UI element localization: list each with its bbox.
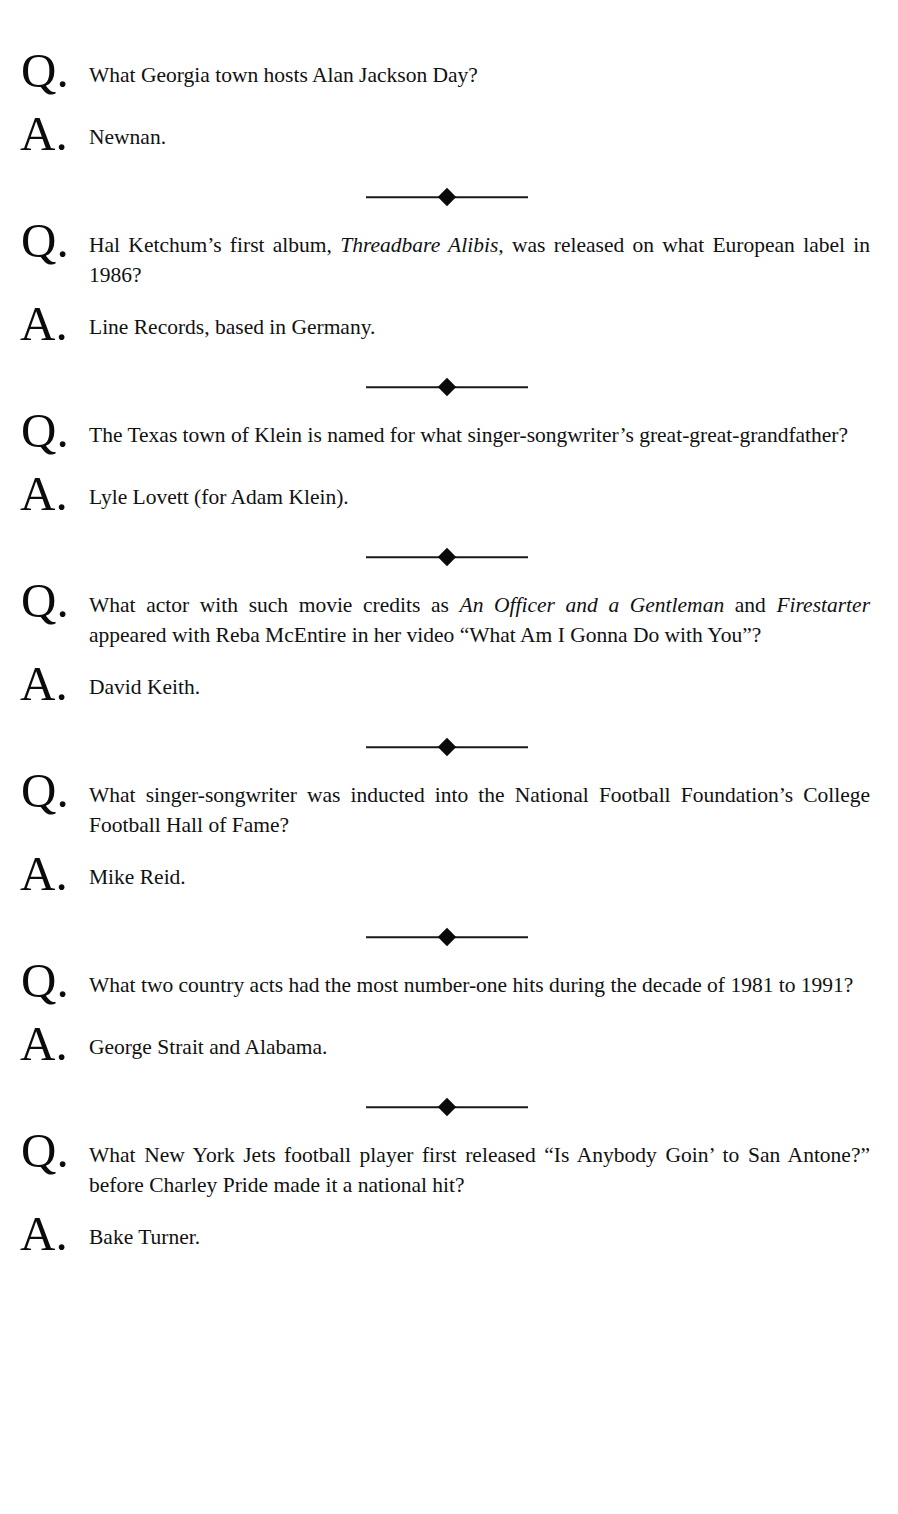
diamond-icon [438,738,456,756]
diamond-icon [438,928,456,946]
question-row: Q.What New York Jets football player fir… [0,1140,898,1200]
question-text: What Georgia town hosts Alan Jackson Day… [89,60,898,90]
diamond-icon [438,188,456,206]
question-row: Q.The Texas town of Klein is named for w… [0,420,898,460]
diamond-ornament-divider [0,730,898,764]
answer-text: Mike Reid. [89,862,898,892]
question-marker: Q. [21,216,69,265]
qa-entry: Q.What Georgia town hosts Alan Jackson D… [0,60,898,162]
qa-entry: Q.What singer-songwriter was inducted in… [0,780,898,902]
question-row: Q.What Georgia town hosts Alan Jackson D… [0,60,898,100]
answer-marker: A. [20,1019,68,1068]
diamond-icon [438,1098,456,1116]
question-row: Q.What two country acts had the most num… [0,970,898,1010]
question-text: What two country acts had the most numbe… [89,970,898,1000]
question-row: Q.What actor with such movie credits as … [0,590,898,650]
qa-entry: Q.What two country acts had the most num… [0,970,898,1072]
answer-row: A.George Strait and Alabama. [0,1032,898,1072]
qa-list: Q.What Georgia town hosts Alan Jackson D… [0,0,898,1262]
question-text: The Texas town of Klein is named for wha… [89,420,898,450]
answer-row: A.Bake Turner. [0,1222,898,1262]
qa-entry: Q.The Texas town of Klein is named for w… [0,420,898,522]
question-text: What actor with such movie credits as An… [89,590,898,650]
answer-marker: A. [20,469,68,518]
question-marker: Q. [21,956,69,1005]
answer-row: A.Lyle Lovett (for Adam Klein). [0,482,898,522]
question-marker: Q. [21,576,69,625]
question-text: Hal Ketchum’s first album, Threadbare Al… [89,230,898,290]
answer-row: A.David Keith. [0,672,898,712]
diamond-ornament-divider [0,370,898,404]
diamond-icon [438,548,456,566]
answer-row: A.Line Records, based in Germany. [0,312,898,352]
diamond-ornament-divider [0,180,898,214]
answer-text: George Strait and Alabama. [89,1032,898,1062]
answer-text: Lyle Lovett (for Adam Klein). [89,482,898,512]
question-text: What New York Jets football player first… [89,1140,898,1200]
diamond-icon [438,378,456,396]
question-marker: Q. [21,46,69,95]
question-text: What singer-songwriter was inducted into… [89,780,898,840]
answer-marker: A. [20,1209,68,1258]
qa-entry: Q.What actor with such movie credits as … [0,590,898,712]
qa-entry: Q.What New York Jets football player fir… [0,1140,898,1262]
answer-text: Newnan. [89,122,898,152]
diamond-ornament-divider [0,1090,898,1124]
question-marker: Q. [21,1126,69,1175]
answer-text: Line Records, based in Germany. [89,312,898,342]
question-row: Q.Hal Ketchum’s first album, Threadbare … [0,230,898,290]
answer-text: Bake Turner. [89,1222,898,1252]
answer-row: A.Mike Reid. [0,862,898,902]
document-page: Q.What Georgia town hosts Alan Jackson D… [0,0,898,1514]
answer-text: David Keith. [89,672,898,702]
answer-marker: A. [20,109,68,158]
question-row: Q.What singer-songwriter was inducted in… [0,780,898,840]
answer-row: A.Newnan. [0,122,898,162]
question-marker: Q. [21,406,69,455]
diamond-ornament-divider [0,920,898,954]
diamond-ornament-divider [0,540,898,574]
answer-marker: A. [20,849,68,898]
qa-entry: Q.Hal Ketchum’s first album, Threadbare … [0,230,898,352]
question-marker: Q. [21,766,69,815]
answer-marker: A. [20,659,68,708]
answer-marker: A. [20,299,68,348]
